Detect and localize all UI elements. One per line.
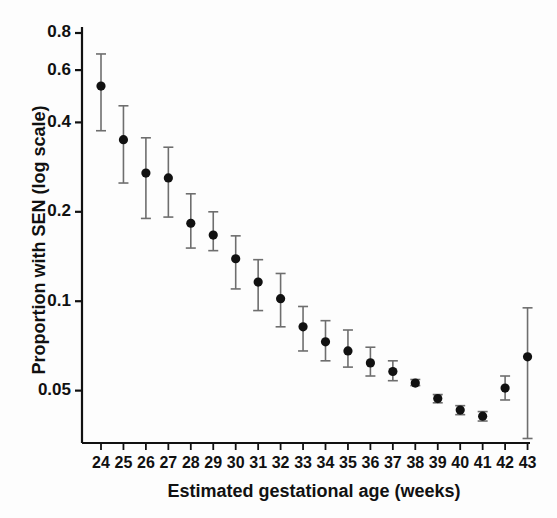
data-point-marker xyxy=(478,412,487,421)
data-point-marker xyxy=(276,294,285,303)
x-axis-tick-label: 41 xyxy=(474,454,492,471)
x-axis-tick-label: 38 xyxy=(406,454,424,471)
data-point-marker xyxy=(119,135,128,144)
x-axis-tick-label: 26 xyxy=(137,454,155,471)
data-point-marker xyxy=(186,219,195,228)
y-axis-tick-label: 0.4 xyxy=(47,112,71,131)
plot-background xyxy=(0,0,557,518)
y-axis-tick-label: 0.6 xyxy=(47,60,71,79)
x-axis-tick-label: 33 xyxy=(294,454,312,471)
x-axis-tick-label: 32 xyxy=(272,454,290,471)
data-point-marker xyxy=(231,254,240,263)
y-axis-title: Proportion with SEN (log scale) xyxy=(29,105,49,374)
data-point-marker xyxy=(321,337,330,346)
y-axis-tick-label: 0.1 xyxy=(47,291,71,310)
figure-container: 0.80.60.40.20.10.05 24252627282930313233… xyxy=(0,0,557,518)
x-axis-tick-label: 25 xyxy=(115,454,133,471)
y-axis-tick-label: 0.2 xyxy=(47,201,71,220)
x-axis-tick-label: 42 xyxy=(496,454,514,471)
x-axis-tick-label: 39 xyxy=(429,454,447,471)
x-axis-tick-label: 24 xyxy=(92,454,110,471)
x-axis-tick-label: 40 xyxy=(451,454,469,471)
data-point-marker xyxy=(411,379,420,388)
data-point-marker xyxy=(388,367,397,376)
data-point-marker xyxy=(456,405,465,414)
data-point-marker xyxy=(366,358,375,367)
x-axis-tick-label: 36 xyxy=(362,454,380,471)
data-point-marker xyxy=(298,322,307,331)
data-point-marker xyxy=(209,230,218,239)
scatter-plot-with-error-bars: 0.80.60.40.20.10.05 24252627282930313233… xyxy=(0,0,557,518)
y-axis-tick-label: 0.8 xyxy=(47,22,71,41)
data-point-marker xyxy=(254,277,263,286)
x-axis-title: Estimated gestational age (weeks) xyxy=(167,481,460,501)
x-axis-tick-label: 31 xyxy=(249,454,267,471)
data-point-marker xyxy=(343,346,352,355)
data-point-marker xyxy=(523,352,532,361)
x-axis-tick-label: 28 xyxy=(182,454,200,471)
data-point-marker xyxy=(96,82,105,91)
data-point-marker xyxy=(164,173,173,182)
data-point-group xyxy=(410,379,420,388)
data-point-marker xyxy=(501,383,510,392)
x-axis-tick-label: 37 xyxy=(384,454,402,471)
data-point-marker xyxy=(433,394,442,403)
data-point-marker xyxy=(141,169,150,178)
x-axis-tick-label: 35 xyxy=(339,454,357,471)
x-axis-tick-label: 29 xyxy=(204,454,222,471)
x-axis-tick-label: 30 xyxy=(227,454,245,471)
x-axis-tick-label: 43 xyxy=(519,454,537,471)
y-axis-tick-label: 0.05 xyxy=(38,380,71,399)
x-axis-tick-label: 27 xyxy=(159,454,177,471)
x-axis-tick-label: 34 xyxy=(317,454,335,471)
